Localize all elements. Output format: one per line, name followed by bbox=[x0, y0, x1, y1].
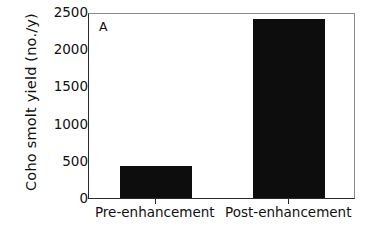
y-axis-tick-label: 2500 bbox=[40, 6, 88, 20]
panel-label: A bbox=[99, 19, 108, 34]
bar-chart-figure: Coho smolt yield (no./y) 050010001500200… bbox=[0, 0, 373, 236]
x-axis-tick-labels: Pre-enhancementPost-enhancement bbox=[88, 204, 355, 224]
plot-area: A bbox=[88, 13, 355, 199]
y-axis-tick-label: 2000 bbox=[40, 43, 88, 57]
y-axis-tick-label: 1000 bbox=[40, 118, 88, 132]
x-axis-tick-label: Pre-enhancement bbox=[95, 204, 215, 220]
y-axis-tick-labels: 05001000150020002500 bbox=[34, 13, 88, 199]
y-axis-tick-label: 500 bbox=[40, 155, 88, 169]
bar bbox=[120, 166, 192, 198]
bar bbox=[253, 19, 325, 198]
y-axis-tick-label: 1500 bbox=[40, 81, 88, 95]
x-axis-tick-label: Post-enhancement bbox=[225, 204, 351, 220]
y-axis-tick-label: 0 bbox=[40, 192, 88, 206]
